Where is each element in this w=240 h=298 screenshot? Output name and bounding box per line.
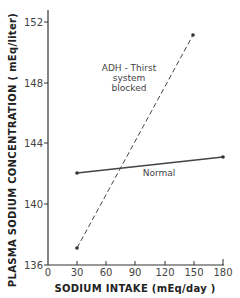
data-point [191,33,195,37]
x-axis-title: SODIUM INTAKE (mEq/day ) [54,283,215,294]
y-tick-label: 152 [24,17,43,28]
x-tick-labels: 0 30 60 90 120 150 180 [45,267,233,278]
x-tick-label: 90 [129,267,142,278]
x-tick-label: 30 [71,267,84,278]
annotation-adh-blocked: ADH - Thirst system blocked [102,63,157,93]
y-tick-label: 148 [24,78,43,89]
annotation-normal: Normal [143,168,176,178]
data-point [75,246,79,250]
x-tick-label: 60 [100,267,113,278]
annotation-line: ADH - Thirst [102,63,157,73]
data-point [75,171,79,175]
chart: 136 140 144 148 152 0 30 60 90 120 150 1… [0,0,240,298]
y-tick-label: 140 [24,199,43,210]
x-tick-label: 0 [45,267,51,278]
y-tick-labels: 136 140 144 148 152 [24,17,43,271]
y-tick-label: 136 [24,260,43,271]
annotation-line: blocked [112,83,147,93]
y-axis-title: PLASMA SODIUM CONCENTRATION ( mEq/liter) [7,13,18,287]
x-tick-label: 180 [213,267,232,278]
annotation-line: system [113,73,146,83]
x-tick-label: 150 [184,267,203,278]
x-ticks [77,259,223,265]
y-tick-label: 144 [24,138,43,149]
x-tick-label: 120 [155,267,174,278]
data-point [221,155,225,159]
